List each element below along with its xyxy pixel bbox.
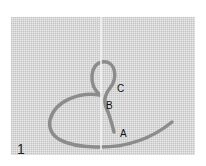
- label-a: A: [120, 129, 127, 139]
- step-number: 1: [17, 142, 25, 156]
- label-c: C: [117, 84, 124, 94]
- label-b: B: [106, 101, 113, 111]
- stitch-illustration: [0, 0, 206, 166]
- thread-small-loop: [92, 62, 115, 132]
